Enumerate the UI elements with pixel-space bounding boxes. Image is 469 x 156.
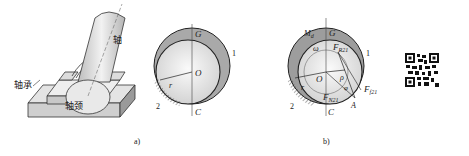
- figure-canvas: 轴 轴承 轴颈 G O C r 1 2 a) Md G ω FR21 O: [0, 0, 469, 156]
- label-C-b: C: [328, 107, 335, 117]
- label-C: C: [195, 107, 202, 117]
- bearing-leader-line: [33, 80, 40, 86]
- label-1-b: 1: [366, 49, 370, 58]
- label-omega: ω: [313, 44, 319, 53]
- journal-label: 轴颈: [65, 100, 83, 111]
- label-2: 2: [156, 102, 160, 111]
- bearing-perspective: 轴 轴承 轴颈: [14, 4, 135, 117]
- label-2-b: 2: [290, 102, 294, 111]
- label-rho: ρ: [339, 73, 344, 82]
- bearing-force-diagram-b: Md G ω FR21 O ρ φ r FN21 Ff21 A C 1 2 b): [288, 18, 377, 146]
- shaft-label: 轴: [113, 34, 122, 45]
- label-O: O: [195, 68, 202, 78]
- label-O-b: O: [316, 74, 323, 84]
- bearing-cross-section-a: G O C r 1 2 a): [134, 24, 236, 146]
- label-Ff21: Ff21: [363, 84, 377, 95]
- label-G-b: G: [329, 28, 336, 38]
- qr-code[interactable]: [405, 53, 439, 87]
- bearing-label: 轴承: [14, 79, 32, 90]
- label-phi: φ: [344, 84, 348, 92]
- caption-b: b): [323, 137, 330, 146]
- label-A: A: [350, 101, 356, 110]
- label-G: G: [195, 29, 202, 39]
- caption-a: a): [134, 137, 141, 146]
- label-1: 1: [232, 49, 236, 58]
